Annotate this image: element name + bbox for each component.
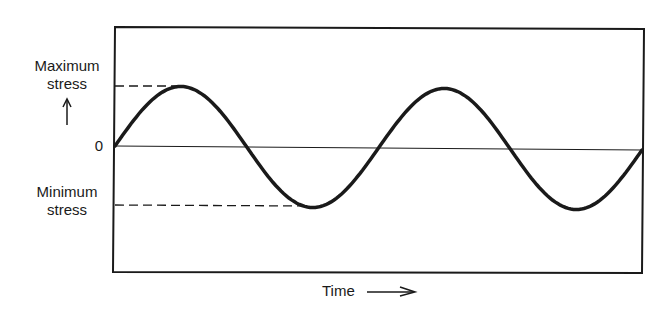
maximum-stress-label-line1: Maximum	[22, 57, 112, 75]
min-stress-dashed-line	[115, 205, 310, 206]
minimum-stress-label-line2: stress	[22, 201, 112, 219]
zero-label: 0	[92, 137, 106, 155]
minimum-stress-label: Minimum stress	[22, 183, 112, 219]
stress-time-diagram	[0, 0, 661, 313]
maximum-stress-label-line2: stress	[22, 75, 112, 93]
stress-curve	[115, 87, 642, 210]
maximum-stress-label: Maximum stress	[22, 57, 112, 93]
right-arrow-icon	[367, 287, 415, 296]
minimum-stress-label-line1: Minimum	[22, 183, 112, 201]
time-axis-label: Time	[322, 282, 355, 300]
up-arrow-icon	[63, 99, 71, 125]
